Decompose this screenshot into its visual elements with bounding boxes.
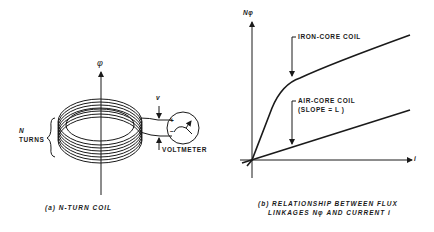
voltage-symbol-label: v — [156, 94, 160, 101]
x-axis-label: i — [414, 155, 416, 162]
minus-sign: − — [170, 128, 174, 135]
turns-label: TURNS — [19, 136, 44, 143]
air-core-line — [242, 110, 410, 163]
coil-icon — [58, 99, 142, 163]
figure: φ N TURNS v + − VOLTMETER (a) N-TURN COI… — [0, 0, 434, 232]
turns-n-label: N — [19, 127, 24, 134]
voltmeter-label: VOLTMETER — [162, 146, 207, 153]
diagram-graphics — [0, 0, 434, 232]
flux-symbol-label: φ — [97, 58, 103, 68]
iron-core-label: IRON-CORE COIL — [298, 33, 361, 40]
caption-b-line1: (b) RELATIONSHIP BETWEEN FLUX — [258, 200, 398, 207]
caption-b-line2: LINKAGES Nφ AND CURRENT i — [268, 209, 391, 216]
air-core-slope-label: (SLOPE = L ) — [298, 106, 345, 113]
y-axis-label: Nφ — [243, 9, 253, 16]
brace-icon — [47, 118, 55, 157]
plus-sign: + — [170, 117, 174, 124]
air-core-label: AIR-CORE COIL — [298, 97, 355, 104]
caption-a: (a) N-TURN COIL — [45, 204, 112, 211]
